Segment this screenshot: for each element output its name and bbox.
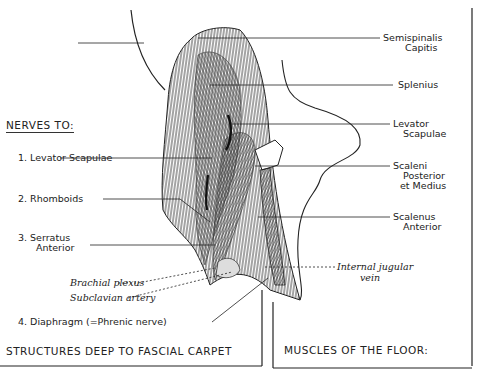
head-outline — [131, 10, 165, 90]
label-internal-jugular-2: vein — [360, 272, 380, 283]
muscle-label-scaleni-3: et Medius — [400, 180, 446, 191]
nerve-label-rhomboids: 2. Rhomboids — [18, 193, 83, 204]
nerves-heading: NERVES TO: — [6, 119, 74, 133]
label-internal-jugular: Internal jugular — [337, 261, 413, 272]
nerve-label-levator-scapulae: 1. Levator Scapulae — [18, 152, 112, 163]
label-subclavian-artery: Subclavian artery — [70, 292, 156, 303]
label-brachial-plexus: Brachial plexus — [70, 277, 144, 288]
muscle-label-semispinalis-2: Capitis — [405, 42, 437, 53]
footer-left-caption: STRUCTURES DEEP TO FASCIAL CARPET — [6, 345, 232, 357]
muscle-label-splenius: Splenius — [398, 79, 438, 90]
footer-right-caption: MUSCLES OF THE FLOOR: — [284, 344, 428, 356]
muscle-label-scalenus-2: Anterior — [403, 221, 441, 232]
nerve-label-serratus-2: Anterior — [36, 242, 74, 253]
muscle-label-levator-2: Scapulae — [403, 128, 446, 139]
nerve-label-diaphragm: 4. Diaphragm (=Phrenic nerve) — [18, 316, 167, 327]
